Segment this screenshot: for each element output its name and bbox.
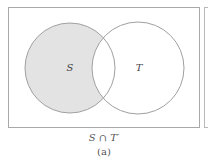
set-s-label: S: [67, 62, 74, 73]
caption-expression: S ∩ T′: [0, 132, 208, 143]
caption-label: (a): [0, 146, 208, 157]
set-t-label: T: [136, 62, 144, 73]
